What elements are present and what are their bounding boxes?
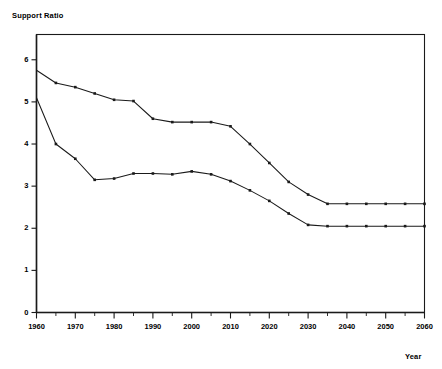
data-point-marker (307, 224, 310, 227)
x-tick-label: 2000 (176, 322, 208, 331)
x-tick-label: 2020 (253, 322, 285, 331)
y-tick-label: 5 (16, 97, 29, 106)
y-tick-label: 0 (16, 308, 29, 317)
data-point-marker (307, 193, 310, 196)
data-point-marker (190, 170, 193, 173)
data-point-marker (113, 98, 116, 101)
x-tick-label: 1970 (59, 322, 91, 331)
data-point-marker (55, 82, 58, 85)
data-point-marker (384, 225, 387, 228)
data-point-marker (229, 125, 232, 128)
data-point-marker (171, 121, 174, 124)
x-tick-label: 2030 (292, 322, 324, 331)
x-tick-label: 1960 (21, 322, 53, 331)
data-point-marker (152, 117, 155, 120)
y-tick-label: 3 (16, 181, 29, 190)
data-point-marker (326, 203, 329, 206)
data-point-marker (346, 203, 349, 206)
data-point-marker (74, 157, 77, 160)
data-point-marker (113, 177, 116, 180)
data-point-marker (210, 121, 213, 124)
data-point-marker (190, 121, 193, 124)
x-tick-label: 2060 (409, 322, 441, 331)
x-tick-label: 1990 (137, 322, 169, 331)
data-point-marker (132, 172, 135, 175)
data-point-marker (287, 181, 290, 184)
data-point-marker (268, 200, 271, 203)
data-point-marker (384, 203, 387, 206)
data-point-marker (152, 172, 155, 175)
data-point-marker (210, 173, 213, 176)
data-point-marker (268, 162, 271, 165)
data-point-marker (423, 225, 426, 228)
plot-area (0, 0, 442, 369)
x-tick-label: 2050 (370, 322, 402, 331)
data-point-marker (346, 225, 349, 228)
data-point-marker (287, 212, 290, 215)
data-point-marker (423, 203, 426, 206)
data-point-marker (132, 100, 135, 103)
y-tick-label: 6 (16, 55, 29, 64)
y-tick-label: 4 (16, 139, 29, 148)
data-point-marker (249, 189, 252, 192)
y-tick-label: 1 (16, 265, 29, 274)
x-tick-label: 1980 (98, 322, 130, 331)
data-point-marker (229, 180, 232, 183)
data-point-marker (171, 173, 174, 176)
data-point-marker (326, 225, 329, 228)
data-point-marker (55, 143, 58, 146)
data-point-marker (404, 225, 407, 228)
data-point-marker (93, 179, 96, 182)
x-tick-label: 2040 (331, 322, 363, 331)
data-point-marker (404, 203, 407, 206)
data-point-marker (249, 143, 252, 146)
y-tick-label: 2 (16, 223, 29, 232)
support-ratio-chart: Support Ratio Year 20 to 64/ 65 and over… (0, 0, 442, 369)
x-tick-label: 2010 (215, 322, 247, 331)
data-point-marker (74, 86, 77, 89)
plot-frame (37, 35, 425, 313)
data-point-marker (365, 203, 368, 206)
data-point-marker (93, 92, 96, 95)
data-point-marker (365, 225, 368, 228)
